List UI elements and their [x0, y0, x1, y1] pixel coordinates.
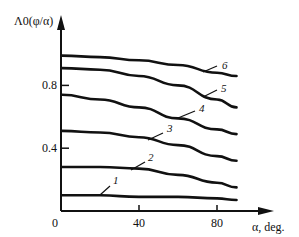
y-tick-label: 0.8 [42, 78, 57, 92]
curve-label-4: 4 [199, 102, 205, 114]
curve-5 [62, 68, 237, 107]
y-tick-label: 0.4 [42, 141, 57, 155]
y-axis-arrow-icon [57, 15, 65, 30]
line-chart: 040800.40.8 Λ0(φ/α) α, deg. 123456 [0, 0, 299, 237]
y-axis-title: Λ0(φ/α) [14, 14, 53, 28]
curve-2 [62, 167, 237, 187]
x-tick-label: 80 [211, 216, 223, 230]
curve-label-6: 6 [222, 59, 228, 71]
curve-label-leader [100, 186, 110, 195]
x-tick-label: 0 [52, 216, 58, 230]
curve-4 [62, 95, 237, 134]
curve-label-3: 3 [166, 122, 173, 134]
curve-label-leader [178, 111, 195, 118]
curve-6 [62, 56, 237, 76]
tick-labels: 040800.40.8 [42, 78, 223, 230]
curve-label-leader [203, 90, 217, 97]
curve-label-1: 1 [113, 174, 119, 186]
x-axis-title: α, deg. [252, 220, 285, 234]
curve-label-2: 2 [148, 151, 154, 163]
curve-1 [62, 195, 237, 200]
curve-label-5: 5 [221, 82, 227, 94]
series-curves [62, 56, 237, 200]
x-tick-label: 40 [133, 216, 145, 230]
x-axis-arrow-icon [258, 207, 274, 215]
